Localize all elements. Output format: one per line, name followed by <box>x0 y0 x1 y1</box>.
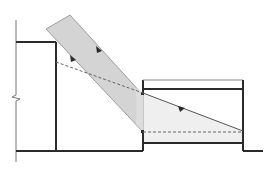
room-light-area <box>143 93 243 143</box>
diagram-canvas <box>0 0 277 174</box>
sun-beam <box>46 15 143 132</box>
section-diagram <box>0 0 277 174</box>
break-symbol-icon <box>12 95 20 101</box>
